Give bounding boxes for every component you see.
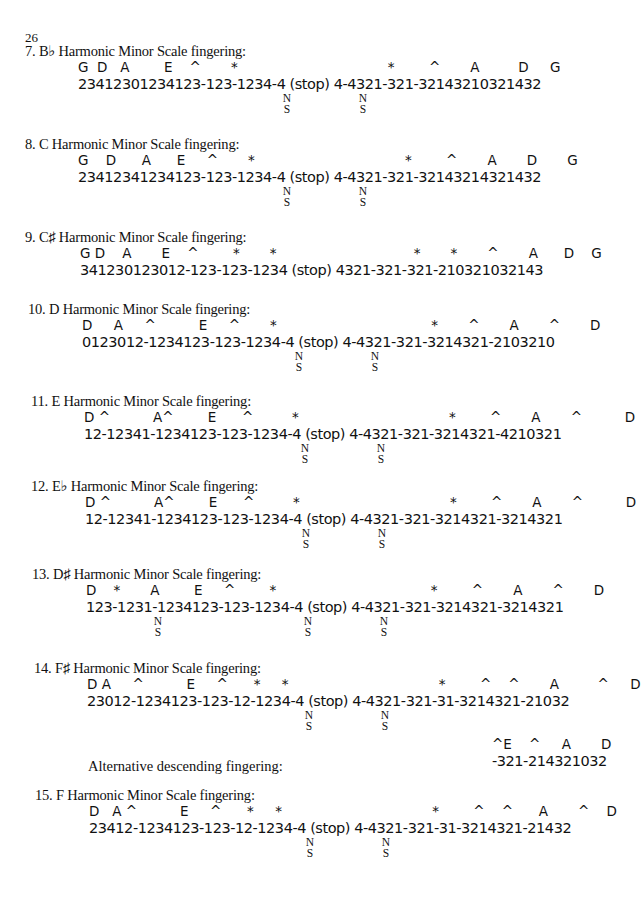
ns-mark: NS [381,837,391,859]
ns-mark: NS [303,616,313,638]
ns-mark: NS [376,443,386,465]
note-markers-row: D A ^ E ^ * * * ^ ^ A ^ D [87,676,641,692]
fingering-row: 123-1231-1234123-123-1234-4 (stop) 4-432… [86,599,563,615]
note-markers-row: D ^ A^ E ^ * * ^ A ^ D [85,494,636,510]
section-heading: 15. F Harmonic Minor Scale fingering: [35,787,255,804]
ns-mark: NS [301,528,311,550]
section-heading: 14. F♯ Harmonic Minor Scale fingering: [34,660,261,677]
fingering-row: 0123012-1234123-123-1234-4 (stop) 4-4321… [82,334,555,350]
section-heading: 10. D Harmonic Minor Scale fingering: [28,301,250,318]
alt-note-markers-row: ^E ^ A D [492,736,611,752]
note-markers-row: D A ^ E ^ * * ^ A ^ D [82,317,601,333]
ns-mark: NS [282,93,292,115]
section-heading: 9. C♯ Harmonic Minor Scale fingering: [25,229,246,246]
fingering-row: 12-12341-1234123-123-1234-4 (stop) 4-432… [84,426,561,442]
fingering-row: 12-12341-1234123-123-1234-4 (stop) 4-432… [85,511,562,527]
section-heading: 7. B♭ Harmonic Minor Scale fingering: [25,43,246,60]
section-heading: 13. D♯ Harmonic Minor Scale fingering: [32,566,261,583]
ns-mark: NS [294,351,304,373]
fingering-row: 23412-1234123-123-12-1234-4 (stop) 4-432… [89,820,571,836]
ns-mark: NS [358,186,368,208]
fingering-row: 23412301234123-123-1234-4 (stop) 4-4321-… [78,76,541,92]
section-heading: 11. E Harmonic Minor Scale fingering: [31,393,251,410]
ns-mark: NS [379,616,389,638]
note-markers-row: D * A E ^ * * ^ A ^ D [86,582,604,598]
ns-mark: NS [377,528,387,550]
alt-fingering-label: Alternative descending fingering: [88,758,283,775]
fingering-row: 23012-1234123-123-12-1234-4 (stop) 4-432… [87,693,569,709]
ns-mark: NS [282,186,292,208]
fingering-row: 23412341234123-123-1234-4 (stop) 4-4321-… [78,169,541,185]
ns-mark: NS [370,351,380,373]
section-heading: 12. E♭ Harmonic Minor Scale fingering: [31,478,258,495]
note-markers-row: G D A E ^ * * ^ A D G [78,152,578,168]
ns-mark: NS [380,710,390,732]
ns-mark: NS [304,710,314,732]
note-markers-row: D ^ A^ E ^ * * ^ A ^ D [84,409,635,425]
section-heading: 8. C Harmonic Minor Scale fingering: [25,136,239,153]
ns-mark: NS [358,93,368,115]
note-markers-row: G D A E ^ * * ^ A D G [78,59,560,75]
ns-mark: NS [153,616,163,638]
ns-mark: NS [305,837,315,859]
alt-fingering-row: -321-214321032 [492,753,607,769]
fingering-row: 341230123012-123-123-1234 (stop) 4321-32… [80,262,543,278]
note-markers-row: D A ^ E ^ * * * ^ ^ A ^ D [89,803,617,819]
note-markers-row: G D A E ^ * * * * ^ A D G [80,245,602,261]
ns-mark: NS [300,443,310,465]
